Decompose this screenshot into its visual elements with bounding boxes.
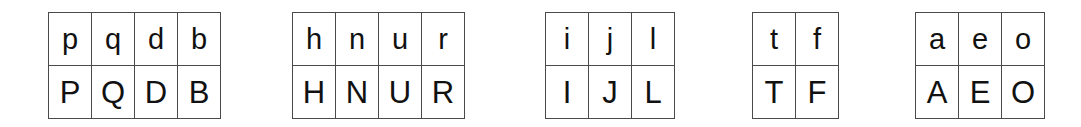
- letter-table-crossbar-group: tfTF: [752, 12, 839, 119]
- letter-cell-lowercase-b: b: [178, 13, 221, 66]
- letter-cell-lowercase-t: t: [753, 13, 796, 66]
- letter-table-descender-ascender-bowl-group: pqdbPQDB: [48, 12, 221, 119]
- table-row-uppercase: PQDB: [49, 66, 221, 119]
- letter-cell-uppercase-I: I: [546, 66, 589, 119]
- letter-cell-uppercase-B: B: [178, 66, 221, 119]
- letter-cell-lowercase-f: f: [796, 13, 839, 66]
- letter-cell-lowercase-d: d: [135, 13, 178, 66]
- letter-cell-lowercase-o: o: [1002, 13, 1045, 66]
- letter-cell-lowercase-a: a: [916, 13, 959, 66]
- table-row-uppercase: IJL: [546, 66, 675, 119]
- table-row-lowercase: tf: [753, 13, 839, 66]
- letter-table-vowel-group: aeoAEO: [915, 12, 1045, 119]
- letter-cell-uppercase-A: A: [916, 66, 959, 119]
- letter-cell-lowercase-j: j: [589, 13, 632, 66]
- table-row-lowercase: hnur: [293, 13, 465, 66]
- letter-cell-uppercase-U: U: [379, 66, 422, 119]
- letter-cell-uppercase-E: E: [959, 66, 1002, 119]
- letter-cell-uppercase-O: O: [1002, 66, 1045, 119]
- table-row-uppercase: TF: [753, 66, 839, 119]
- table-row-lowercase: pqdb: [49, 13, 221, 66]
- table-row-uppercase: AEO: [916, 66, 1045, 119]
- table-row-uppercase: HNUR: [293, 66, 465, 119]
- letter-cell-lowercase-p: p: [49, 13, 92, 66]
- letter-cell-lowercase-i: i: [546, 13, 589, 66]
- letter-table-arch-group: hnurHNUR: [292, 12, 465, 119]
- letter-cell-lowercase-u: u: [379, 13, 422, 66]
- letter-cell-uppercase-L: L: [632, 66, 675, 119]
- letter-cell-lowercase-n: n: [336, 13, 379, 66]
- letter-cell-uppercase-P: P: [49, 66, 92, 119]
- table-row-lowercase: aeo: [916, 13, 1045, 66]
- letter-cell-lowercase-q: q: [92, 13, 135, 66]
- letter-cell-uppercase-H: H: [293, 66, 336, 119]
- letter-cell-uppercase-F: F: [796, 66, 839, 119]
- letter-cell-uppercase-J: J: [589, 66, 632, 119]
- table-row-lowercase: ijl: [546, 13, 675, 66]
- letter-cell-lowercase-r: r: [422, 13, 465, 66]
- letter-table-stem-group: ijlIJL: [545, 12, 675, 119]
- letter-cell-uppercase-Q: Q: [92, 66, 135, 119]
- letter-cell-uppercase-R: R: [422, 66, 465, 119]
- letter-cell-lowercase-h: h: [293, 13, 336, 66]
- letter-pairs-board: pqdbPQDBhnurHNURijlIJLtfTFaeoAEO: [0, 0, 1081, 127]
- letter-cell-uppercase-D: D: [135, 66, 178, 119]
- letter-cell-lowercase-e: e: [959, 13, 1002, 66]
- letter-cell-uppercase-N: N: [336, 66, 379, 119]
- letter-cell-uppercase-T: T: [753, 66, 796, 119]
- letter-cell-lowercase-l: l: [632, 13, 675, 66]
